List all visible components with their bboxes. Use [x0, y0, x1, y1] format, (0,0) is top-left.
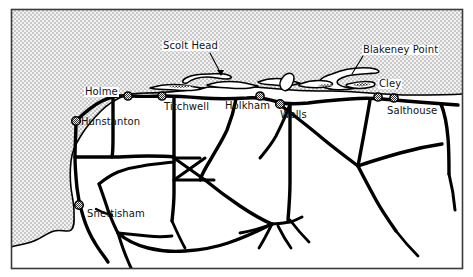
marker-holkham: [256, 92, 264, 100]
feature-label-scolt-head: Scolt Head: [162, 41, 219, 51]
marker-titchwell: [158, 92, 166, 100]
marker-hunstanton: [72, 117, 81, 126]
place-label-wells: Wells: [279, 110, 308, 120]
place-label-cley: Cley: [378, 79, 402, 89]
feature-label-blakeney-point: Blakeney Point: [362, 45, 439, 55]
map-canvas: [0, 0, 473, 277]
marker-salthouse: [390, 94, 398, 102]
place-label-salthouse: Salthouse: [386, 106, 438, 116]
place-label-snettisham: Snettisham: [86, 209, 146, 219]
marker-cley: [374, 93, 382, 101]
marker-holme: [124, 92, 132, 100]
map-figure: Scolt Head Blakeney Point Holme Hunstant…: [0, 0, 473, 277]
place-label-hunstanton: Hunstanton: [80, 117, 141, 127]
marker-snettisham: [75, 201, 84, 210]
place-label-holkham: Holkham: [224, 101, 271, 111]
place-label-holme: Holme: [84, 87, 119, 97]
marker-wells: [276, 100, 285, 109]
place-label-titchwell: Titchwell: [163, 102, 210, 112]
